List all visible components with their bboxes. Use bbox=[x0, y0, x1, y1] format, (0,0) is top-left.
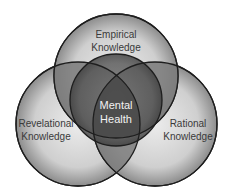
label-mental-health-line2: Health bbox=[100, 113, 132, 125]
label-rational-line1: Rational bbox=[170, 118, 207, 129]
venn-diagram: Empirical Knowledge Revelational Knowled… bbox=[0, 0, 229, 196]
label-empirical-line1: Empirical bbox=[95, 29, 136, 40]
label-rational-line2: Knowledge bbox=[163, 131, 213, 142]
label-empirical-line2: Knowledge bbox=[91, 42, 141, 53]
label-revelational-line1: Revelational bbox=[18, 118, 73, 129]
label-revelational-line2: Knowledge bbox=[21, 131, 71, 142]
label-mental-health-line1: Mental bbox=[99, 99, 132, 111]
